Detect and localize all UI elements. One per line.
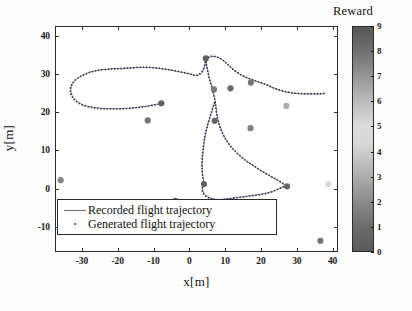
trajectory-dot — [181, 71, 183, 73]
trajectory-dot — [255, 194, 257, 196]
y-tick-right — [334, 36, 338, 37]
trajectory-dot — [220, 129, 222, 131]
trajectory-dot — [270, 86, 272, 88]
legend-dot-icon — [62, 223, 88, 225]
x-tick-top — [297, 26, 298, 30]
trajectory-dot — [152, 67, 154, 69]
trajectory-dot — [201, 164, 203, 166]
trajectory-dot — [135, 107, 137, 109]
reward-waypoint-marker — [325, 181, 331, 187]
trajectory-dot — [168, 69, 170, 71]
trajectory-dot — [271, 176, 273, 178]
trajectory-dot — [177, 71, 179, 73]
trajectory-dot — [226, 141, 228, 143]
trajectory-dot — [246, 77, 248, 79]
trajectory-dot — [230, 146, 232, 148]
trajectory-dot — [213, 105, 215, 107]
trajectory-dot — [234, 150, 236, 152]
trajectory-dot — [261, 193, 263, 195]
colorbar-tick-label: 9 — [377, 21, 382, 31]
colorbar-tick — [371, 126, 374, 127]
legend-label-recorded: Recorded flight trajectory — [88, 203, 212, 218]
trajectory-dot — [304, 93, 306, 95]
trajectory-dot — [323, 92, 325, 94]
trajectory-dot — [243, 75, 245, 77]
trajectory-dot — [104, 69, 106, 71]
trajectory-dot — [294, 92, 296, 94]
trajectory-dot — [219, 126, 221, 128]
trajectory-dot — [202, 177, 204, 179]
trajectory-dot — [240, 74, 242, 76]
colorbar-tick-label: 7 — [377, 71, 382, 81]
trajectory-dot — [209, 80, 211, 82]
trajectory-dot — [203, 142, 205, 144]
trajectory-dot — [193, 74, 195, 76]
trajectory-dot — [265, 193, 267, 195]
colorbar-tick — [371, 26, 374, 27]
trajectory-dot — [213, 95, 215, 97]
x-tick — [118, 248, 119, 252]
trajectory-dot — [268, 192, 270, 194]
trajectory-dot — [202, 190, 204, 192]
colorbar-tick — [371, 177, 374, 178]
x-tick-label: 30 — [292, 256, 301, 266]
trajectory-dot — [291, 92, 293, 94]
legend: Recorded flight trajectory Generated fli… — [57, 199, 277, 235]
trajectory-dot — [100, 108, 102, 110]
trajectory-dot — [258, 81, 260, 83]
y-tick — [55, 150, 59, 151]
trajectory-dot — [275, 88, 277, 90]
trajectory-dot — [242, 196, 244, 198]
trajectory-dot — [162, 68, 164, 70]
trajectory-dot — [107, 68, 109, 70]
x-tick-label: 40 — [328, 256, 337, 266]
trajectory-line — [71, 56, 325, 108]
reward-waypoint-marker — [58, 177, 64, 183]
trajectory-dot — [77, 77, 79, 79]
trajectory-dot — [273, 87, 275, 89]
x-tick — [261, 248, 262, 252]
y-tick-right — [334, 112, 338, 113]
colorbar-tick-label: 4 — [377, 147, 382, 157]
trajectory-dot — [142, 106, 144, 108]
trajectory-dot — [249, 78, 251, 80]
y-tick — [55, 74, 59, 75]
reward-waypoint-marker — [201, 181, 207, 187]
trajectory-dot — [313, 93, 315, 95]
trajectory-dot — [301, 93, 303, 95]
colorbar-tick-label: 6 — [377, 96, 382, 106]
colorbar-tick — [371, 252, 374, 253]
trajectory-dot — [184, 72, 186, 74]
colorbar-tick-label: 3 — [377, 172, 382, 182]
trajectory-dot — [244, 159, 246, 161]
y-tick — [55, 189, 59, 190]
y-tick-right — [334, 189, 338, 190]
legend-item-recorded: Recorded flight trajectory — [62, 203, 271, 217]
trajectory-dot — [145, 106, 147, 108]
reward-waypoint-marker — [227, 85, 233, 91]
trajectory-dot — [211, 55, 213, 57]
trajectory-dots — [69, 55, 324, 110]
colorbar-tick-label: 0 — [377, 247, 382, 257]
y-axis-label: y[m] — [1, 115, 17, 161]
x-tick-top — [333, 26, 334, 30]
trajectory-dot — [94, 107, 96, 109]
trajectory-dot — [206, 64, 208, 66]
colorbar-tick — [371, 101, 374, 102]
trajectory-dot — [132, 107, 134, 109]
trajectory-dot — [80, 75, 82, 77]
trajectory-dot — [72, 81, 74, 83]
trajectory-dots — [201, 102, 215, 182]
trajectory-dot — [214, 98, 216, 100]
trajectory-dot — [202, 149, 204, 151]
trajectory-dot — [97, 108, 99, 110]
trajectory-dot — [78, 103, 80, 105]
trajectory-dot — [203, 139, 205, 141]
trajectory-dot — [208, 76, 210, 78]
trajectory-dot — [307, 93, 309, 95]
trajectory-dot — [255, 80, 257, 82]
legend-label-generated: Generated flight trajectory — [88, 217, 215, 232]
trajectory-dot — [123, 68, 125, 70]
trajectory-dot — [213, 102, 215, 104]
x-tick — [82, 248, 83, 252]
